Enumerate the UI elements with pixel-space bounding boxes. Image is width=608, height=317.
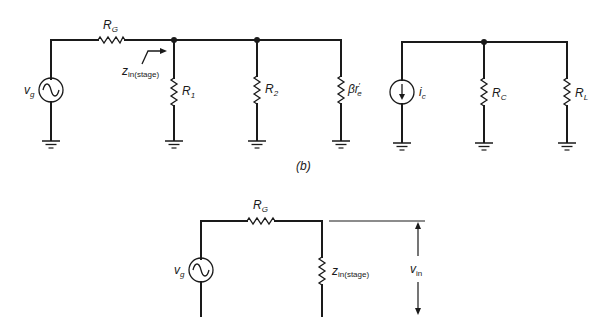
- resistor-rg: [247, 218, 275, 224]
- label-rg: RG: [253, 198, 268, 214]
- arrow-down-icon: [399, 94, 405, 100]
- ground-icon: [393, 143, 411, 150]
- input-ac-circuit: RG vg zin(stage) R1 R2 βr′e: [24, 18, 362, 148]
- figure-label: (b): [296, 159, 311, 173]
- ground-icon: [475, 143, 493, 150]
- equivalent-circuit: RG vg zin(stage) vin: [174, 198, 425, 317]
- resistor-r2: [254, 76, 260, 104]
- ground-icon: [165, 141, 183, 148]
- label-vin: vin: [410, 262, 422, 278]
- ground-icon: [558, 143, 576, 150]
- resistor-rl: [564, 78, 570, 106]
- ground-icon: [332, 141, 350, 148]
- label-ic: ic: [419, 85, 426, 101]
- label-zin-stage: zin(stage): [331, 264, 369, 279]
- sine-wave-icon: [193, 264, 209, 276]
- ground-icon: [42, 141, 60, 148]
- arrow-up-icon: [415, 222, 421, 229]
- label-rc: RC: [492, 86, 507, 102]
- resistor-r1: [171, 78, 177, 106]
- label-vg: vg: [174, 263, 185, 279]
- label-zin-stage: zin(stage): [121, 64, 159, 79]
- resistor-rg: [98, 37, 125, 43]
- label-vg: vg: [24, 83, 35, 99]
- resistor-rc: [481, 78, 487, 106]
- label-r1: R1: [182, 84, 195, 100]
- arrow-down-icon: [415, 308, 421, 315]
- label-rg: RG: [103, 18, 118, 34]
- resistor-beta-re: [338, 76, 344, 104]
- ground-icon: [248, 141, 266, 148]
- resistor-zin-stage: [319, 257, 325, 285]
- sine-wave-icon: [43, 84, 59, 96]
- label-rl: RL: [575, 86, 588, 102]
- output-ac-circuit: ic RC RL: [390, 39, 588, 150]
- circuit-diagram: RG vg zin(stage) R1 R2 βr′e: [0, 0, 608, 317]
- label-beta-re: βr′e: [347, 81, 362, 98]
- label-r2: R2: [265, 82, 279, 98]
